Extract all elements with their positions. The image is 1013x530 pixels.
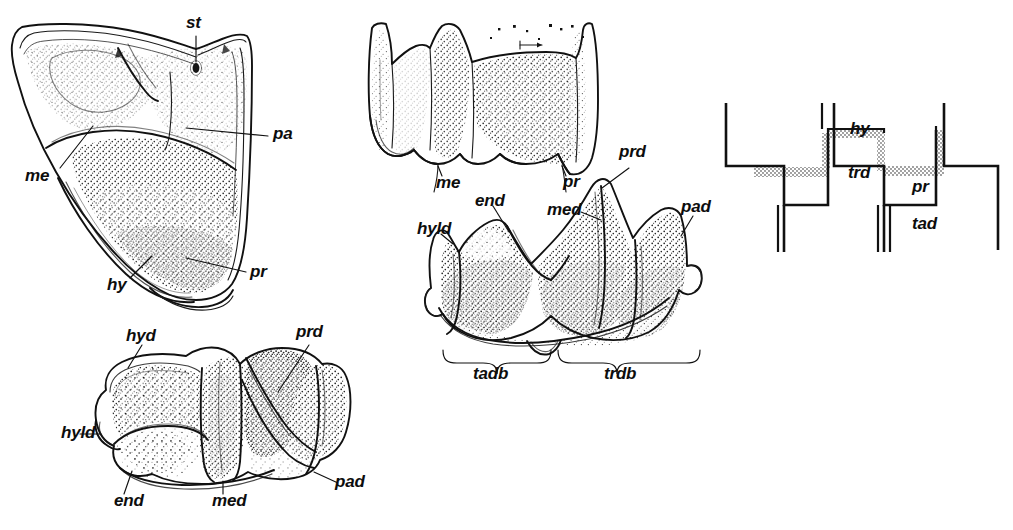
panel-upper-molar-occlusal: st pa me pr hy: [0, 0, 300, 320]
label-pad-lingual: pad: [681, 198, 711, 215]
label-hy: hy: [107, 276, 126, 293]
figure-canvas: st pa me pr hy: [0, 0, 1013, 530]
label-prd-lingual: prd: [619, 143, 646, 160]
label-pad-occlusal: pad: [335, 473, 365, 490]
label-med-occlusal: med: [212, 492, 246, 509]
band-left-horizontal: [754, 167, 828, 177]
label-pr-schematic: pr: [912, 178, 929, 195]
lower-molar-lingual-leaders: [405, 140, 735, 390]
panel-occlusion-schematic: hy trd pr tad: [722, 100, 1012, 260]
label-me: me: [25, 167, 49, 184]
label-prd-occlusal: prd: [296, 323, 323, 340]
label-tad-schematic: tad: [912, 215, 937, 232]
label-pa: pa: [273, 125, 292, 142]
leader-pr: [186, 258, 246, 272]
leader-med: [581, 212, 601, 220]
label-st: st: [186, 14, 201, 31]
schematic-lower-right-profile: [944, 103, 998, 250]
label-med-lingual: med: [547, 201, 581, 218]
leader-prd: [602, 168, 629, 188]
label-end-occlusal: end: [114, 492, 144, 509]
leader-hyd: [128, 345, 142, 368]
panel-lower-molar-occlusal: hyd prd hyld end med pad: [70, 340, 370, 510]
leader-pa: [186, 128, 268, 136]
label-pr: pr: [250, 263, 267, 280]
label-hyld-lingual: hyld: [417, 220, 451, 237]
leader-pad: [681, 216, 693, 236]
schematic-lower-left-profile: [726, 103, 828, 205]
label-end-lingual: end: [475, 192, 505, 209]
label-hy-schematic: hy: [850, 120, 869, 137]
label-hyd-occlusal: hyd: [126, 327, 156, 344]
lower-molar-occlusal-leaders: [70, 340, 370, 510]
label-hyld-occlusal: hyld: [61, 424, 95, 441]
label-trdb: trdb: [604, 365, 636, 382]
panel-lower-molar-lingual: prd pad med end hyld tadb trdb: [405, 140, 735, 390]
leader-hy: [130, 256, 152, 278]
label-trd-schematic: trd: [848, 164, 870, 181]
label-tadb: tadb: [473, 365, 508, 382]
leader-me: [60, 126, 93, 168]
leader-prd-occ: [278, 345, 309, 392]
